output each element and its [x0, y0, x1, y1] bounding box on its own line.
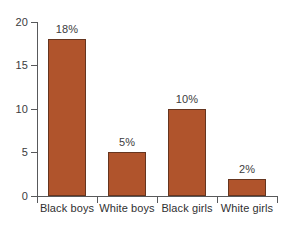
- y-axis-tick-20: [31, 22, 37, 23]
- y-axis-tick-15: [31, 65, 37, 66]
- bar-value-white-boys: 5%: [107, 137, 147, 148]
- y-axis-tick-5: [31, 152, 37, 153]
- y-axis-line: [37, 22, 38, 197]
- x-axis-label-white-girls: White girls: [217, 202, 277, 215]
- bar-value-black-boys: 18%: [47, 24, 87, 35]
- x-axis-tick-4: [277, 196, 278, 203]
- bar-white-boys[interactable]: [108, 152, 146, 196]
- bar-black-girls[interactable]: [168, 109, 206, 196]
- bar-black-boys[interactable]: [48, 39, 86, 196]
- y-axis-tick-10: [31, 109, 37, 110]
- y-axis-tick-label-15: 15: [0, 60, 28, 71]
- x-axis-label-black-boys: Black boys: [37, 202, 97, 215]
- y-axis-tick-label-5: 5: [0, 147, 28, 158]
- bar-value-black-girls: 10%: [167, 94, 207, 105]
- y-axis-tick-label-0: 0: [0, 191, 28, 202]
- x-axis-label-white-boys: White boys: [97, 202, 157, 215]
- bar-value-white-girls: 2%: [227, 164, 267, 175]
- y-axis-tick-label-10: 10: [0, 104, 28, 115]
- bar-white-girls[interactable]: [228, 179, 266, 196]
- y-axis-tick-label-20: 20: [0, 17, 28, 28]
- bar-chart: 20 15 10 5 0 18% 5% 10% 2% Black boys Wh…: [0, 0, 288, 225]
- x-axis-label-black-girls: Black girls: [157, 202, 217, 215]
